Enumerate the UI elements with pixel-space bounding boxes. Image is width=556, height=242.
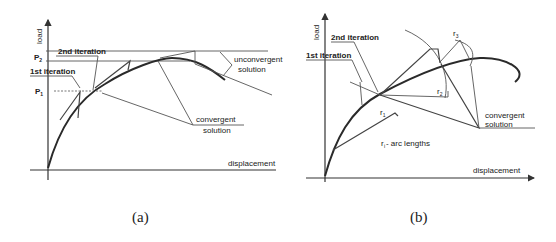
convergent-leader-1 xyxy=(102,93,193,125)
displacement-axis-label: displacement xyxy=(473,166,521,175)
p2-label: P2 xyxy=(34,53,42,63)
r3-label: r3 xyxy=(453,29,459,39)
convergent-leader-2 xyxy=(471,66,479,128)
iter1-leader xyxy=(72,76,80,88)
figure-b: load displacement 1st iteration 2nd iter… xyxy=(306,14,535,226)
convergent-leader-2 xyxy=(158,61,193,125)
iter1-label: 1st iteration xyxy=(30,67,75,76)
arc-lengths-sub: i xyxy=(384,143,385,149)
unconvergent-label-2: solution xyxy=(238,65,266,74)
arc-lengths-label: r - arc lengths xyxy=(381,139,430,148)
convergent-leader xyxy=(380,64,479,128)
iteration-path-3 xyxy=(440,40,470,62)
iter1-label: 1st iteration xyxy=(306,51,351,60)
caption-b: (b) xyxy=(410,209,428,226)
convergent-label-2: solution xyxy=(203,126,231,135)
unconvergent-leader xyxy=(220,52,232,76)
iter2-label: 2nd iteration xyxy=(58,47,106,56)
iteration-path-2 xyxy=(95,61,130,88)
p1-label: P1 xyxy=(35,87,43,97)
figure-canvas: load displacement P2 P1 1st iteration 2n… xyxy=(0,0,556,242)
convergent-label-1: convergent xyxy=(485,111,525,120)
iter1-leader xyxy=(352,60,362,82)
iteration-path xyxy=(380,49,440,95)
load-axis-label: load xyxy=(312,25,321,40)
arc-r2 xyxy=(405,30,446,98)
displacement-axis-label: displacement xyxy=(228,159,276,168)
iter1-drop xyxy=(360,82,362,105)
load-axis-label: load xyxy=(35,29,44,44)
unconvergent-label-1: unconvergent xyxy=(234,55,283,64)
r2-label: r2 xyxy=(437,87,443,97)
iter2-label: 2nd iteration xyxy=(331,33,379,42)
figure-a: load displacement P2 P1 1st iteration 2n… xyxy=(30,20,283,226)
convergent-label-1: convergent xyxy=(196,115,236,124)
iter2-leader xyxy=(354,42,378,92)
caption-a: (a) xyxy=(132,209,149,226)
convergent-label-2: solution xyxy=(485,120,513,129)
r1-label: r1 xyxy=(380,108,386,118)
